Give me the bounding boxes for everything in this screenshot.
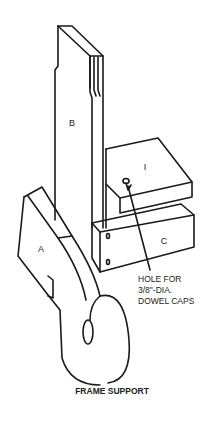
frame-support-diagram: B I C A HOLE FOR 3/8"-DIA. DOWEL CAPS FR… [0,0,224,434]
callout-leader-line [128,186,150,270]
part-b-post [55,26,103,228]
part-i-block [106,138,192,228]
callout-line-1: HOLE FOR [138,274,181,284]
line-drawing: B I C A HOLE FOR 3/8"-DIA. DOWEL CAPS FR… [0,0,224,434]
part-a-support [18,187,129,385]
label-b: B [69,118,75,128]
label-i: I [144,162,147,172]
part-c-block [92,204,194,272]
label-c: C [161,236,168,246]
callout-line-2: 3/8"-DIA. [138,285,172,295]
label-a: A [38,244,44,254]
callout-line-3: DOWEL CAPS [138,296,195,306]
diagram-caption: FRAME SUPPORT [75,386,149,396]
